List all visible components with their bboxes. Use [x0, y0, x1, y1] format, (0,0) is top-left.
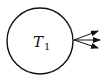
diagram-canvas: T1 — [0, 0, 107, 81]
arrow-lower — [74, 40, 98, 48]
node-label: T1 — [33, 33, 50, 52]
arrow-fan — [74, 31, 100, 48]
arrow-upper — [74, 31, 98, 40]
